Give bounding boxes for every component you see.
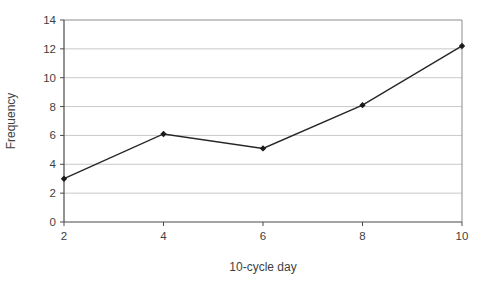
y-tick-label: 2 [50, 187, 56, 199]
y-tick-label: 8 [50, 101, 56, 113]
data-point-marker [160, 131, 166, 137]
y-tick-label: 0 [50, 216, 56, 228]
x-axis-title: 10-cycle day [64, 260, 462, 274]
data-point-marker [359, 102, 365, 108]
data-point-marker [260, 145, 266, 151]
y-axis-title: Frequency [4, 71, 18, 171]
data-point-marker [61, 176, 67, 182]
x-tick-label: 6 [260, 230, 266, 242]
y-tick-label: 14 [43, 14, 56, 26]
data-line [64, 46, 462, 179]
x-tick-label: 8 [359, 230, 365, 242]
y-tick-label: 6 [50, 129, 56, 141]
y-tick-label: 12 [43, 43, 56, 55]
x-tick-label: 2 [61, 230, 67, 242]
x-tick-label: 10 [456, 230, 469, 242]
y-tick-label: 4 [50, 158, 57, 170]
frequency-line-chart: 02468101214246810 Frequency 10-cycle day [0, 0, 487, 290]
y-tick-label: 10 [43, 72, 56, 84]
chart-plot-area: 02468101214246810 [0, 0, 487, 290]
x-tick-label: 4 [160, 230, 167, 242]
data-point-marker [459, 43, 465, 49]
